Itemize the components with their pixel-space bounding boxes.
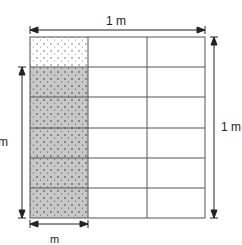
left-unit: m	[0, 135, 8, 149]
bottom-dimension-label: m	[50, 233, 59, 245]
unit-square-diagram	[0, 0, 242, 245]
top-dimension-label: 1 m	[106, 14, 126, 28]
right-dimension-label: 1 m	[221, 120, 241, 134]
left-dimension-label: m	[0, 135, 8, 149]
bottom-unit: m	[50, 233, 59, 245]
